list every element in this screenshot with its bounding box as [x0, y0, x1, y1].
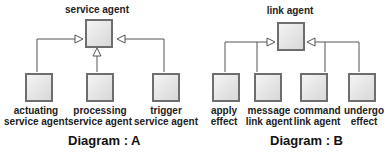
parent-label-a: service agent	[62, 4, 132, 15]
command-link-agent-box	[300, 73, 328, 102]
processing-service-agent-box	[86, 73, 114, 102]
caption-b: Diagram : B	[270, 133, 343, 148]
child-label-b4: undergo effect	[342, 105, 386, 127]
child-label-a1: actuating service agent	[4, 105, 68, 127]
child-label-a2: processing service agent	[68, 105, 132, 127]
trigger-service-agent-box	[152, 73, 180, 102]
child-label-b3: command link agent	[292, 105, 342, 127]
child-label-a3: trigger service agent	[134, 105, 198, 127]
actuating-service-agent-box	[25, 73, 53, 102]
link-agent-box	[277, 22, 305, 51]
undergo-effect-box	[348, 73, 376, 102]
message-link-agent-box	[254, 73, 282, 102]
connector-lines	[0, 0, 387, 154]
parent-label-b: link agent	[255, 5, 325, 16]
service-agent-box	[85, 19, 113, 48]
caption-a: Diagram : A	[68, 133, 140, 148]
child-label-b2: message link agent	[244, 105, 294, 127]
apply-effect-box	[212, 73, 240, 102]
child-label-b1: apply effect	[205, 105, 243, 127]
